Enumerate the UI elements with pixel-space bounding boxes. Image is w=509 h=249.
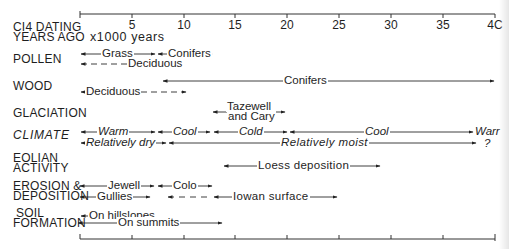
tick-label: 35 bbox=[436, 18, 449, 32]
row-label-climate: CLIMATE bbox=[13, 130, 70, 141]
row-label-pollen: POLLEN bbox=[13, 54, 62, 65]
tick-label: 15 bbox=[228, 18, 241, 32]
tick-label: 25 bbox=[332, 18, 345, 32]
bar-label-cold: Cold bbox=[238, 126, 264, 137]
tick-label: 20 bbox=[280, 18, 293, 32]
row-label-formation: FORMATION bbox=[13, 218, 86, 229]
bar-label-question: ? bbox=[483, 138, 491, 149]
axis-unit-label: x1000 years bbox=[90, 32, 165, 43]
bar-label-iowan: Iowan surface bbox=[232, 191, 310, 202]
scan-edge-shadow bbox=[499, 0, 509, 249]
bar-label-deciduous-wood: Deciduous bbox=[85, 86, 141, 97]
row-label-glaciation: GLACIATION bbox=[13, 108, 87, 119]
bar-label-loess: Loess deposition bbox=[257, 160, 350, 171]
bar-label-deciduous-pollen: Deciduous bbox=[127, 58, 183, 69]
bar-label-relatively-dry: Relatively dry bbox=[85, 137, 156, 148]
row-label-deposition: DEPOSITION bbox=[13, 191, 89, 202]
tick-label: 30 bbox=[384, 18, 397, 32]
bar-label-relatively-moist: Relatively moist bbox=[280, 137, 369, 148]
bar-label-gullies: Gullies bbox=[96, 191, 133, 202]
row-label-years-ago: YEARS AGO bbox=[13, 32, 85, 43]
bar-label-and-cary: and Cary bbox=[227, 111, 276, 122]
bar-label-cool-1: Cool bbox=[172, 126, 198, 137]
bar-label-summits: On summits bbox=[117, 217, 180, 228]
bar-label-conifers-wood: Conifers bbox=[283, 75, 328, 86]
row-label-wood: WOOD bbox=[13, 81, 52, 92]
tick-label: 10 bbox=[177, 18, 190, 32]
bar-label-colo: Colo bbox=[172, 180, 198, 191]
bar-label-warm-2: Warr bbox=[474, 126, 501, 137]
row-label-activity: ACTIVITY bbox=[13, 163, 69, 174]
